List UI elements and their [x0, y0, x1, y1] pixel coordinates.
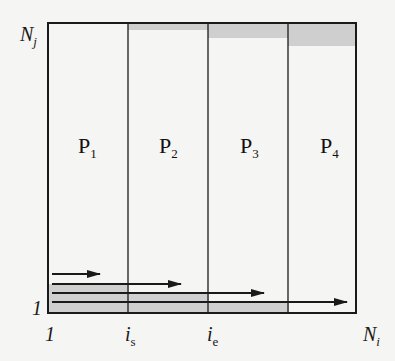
x-ie-main: i: [207, 323, 213, 345]
p3-sub: 3: [252, 146, 259, 161]
p4-main: P: [320, 133, 332, 158]
shade-bottom-p3: [209, 302, 289, 312]
p2-main: P: [159, 133, 171, 158]
x-axis-left-label: 1: [45, 323, 55, 346]
processor-label-p1: P1: [78, 133, 97, 159]
x-is-main: i: [125, 323, 131, 345]
shade-top-p4: [288, 23, 355, 46]
y-top-main: N: [20, 23, 33, 45]
y-top-sub: j: [33, 34, 37, 49]
y-axis-top-label: Nj: [20, 23, 37, 46]
x-ie-sub: e: [213, 334, 219, 349]
p1-sub: 1: [90, 146, 97, 161]
p2-sub: 2: [171, 146, 178, 161]
x-axis-ie-label: ie: [207, 323, 218, 346]
diagram-canvas: [0, 0, 395, 361]
processor-label-p2: P2: [159, 133, 178, 159]
x-axis-is-label: is: [125, 323, 136, 346]
domain-box: [48, 23, 356, 313]
p4-sub: 4: [332, 146, 339, 161]
shade-bottom-p1: [49, 284, 129, 312]
shade-top-p2: [128, 23, 208, 30]
processor-label-p4: P4: [320, 133, 339, 159]
x-axis-right-label: Ni: [363, 323, 380, 346]
processor-label-p3: P3: [240, 133, 259, 159]
p1-main: P: [78, 133, 90, 158]
x-right-sub: i: [376, 334, 380, 349]
shade-top-p3: [208, 23, 288, 38]
x-is-sub: s: [131, 334, 136, 349]
y-axis-bottom-label: 1: [32, 297, 42, 320]
p3-main: P: [240, 133, 252, 158]
x-right-main: N: [363, 323, 376, 345]
domain-decomposition-diagram: Nj 1 1 is ie Ni P1 P2 P3 P4: [0, 0, 395, 361]
